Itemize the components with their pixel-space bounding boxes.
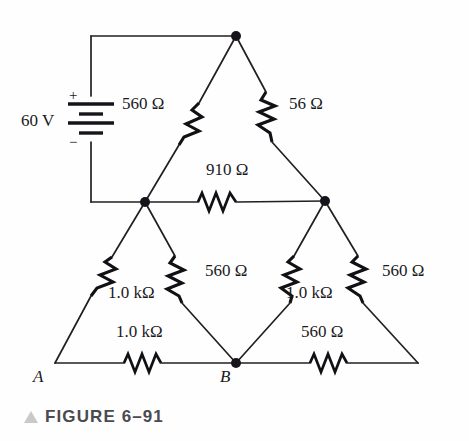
wire-midleft-to-r560-inner (145, 202, 175, 256)
wire-r1k-right-to-B (236, 303, 290, 363)
wire-top-to-r560-upper (199, 36, 236, 103)
resistor-label-lower-left: 1.0 kΩ (108, 284, 155, 301)
wire-r560-upper-to-midleft (145, 145, 179, 202)
wire-r56-to-midright (272, 142, 325, 201)
figure-caption: FIGURE 6–91 (24, 407, 164, 427)
wire-midright-to-r1k-right (294, 201, 325, 256)
polarity-plus-label: + (69, 88, 77, 103)
figure-container: 60 V + − 560 Ω 56 Ω 910 Ω 1.0 kΩ 560 Ω 1… (0, 0, 469, 441)
resistor-top-right-zigzag (258, 92, 275, 142)
resistor-lower-inner-left-zigzag (167, 256, 184, 303)
wire-r560-right-to-bottomright (363, 303, 418, 363)
resistor-label-lower-inner-left: 560 Ω (205, 262, 247, 279)
junction-node-B (231, 358, 241, 368)
resistor-label-middle: 910 Ω (206, 161, 248, 178)
resistor-top-left-zigzag (179, 103, 202, 145)
wire-r910-to-midright (236, 201, 325, 202)
resistor-lower-right-zigzag (348, 256, 366, 303)
resistor-label-bottom-left: 1.0 kΩ (116, 323, 163, 340)
figure-caption-text: FIGURE 6–91 (45, 407, 164, 427)
wire-r1k-left-to-A (55, 296, 91, 363)
resistor-bottom-left-zigzag (124, 354, 161, 372)
circuit-schematic (0, 0, 469, 441)
source-voltage-label: 60 V (21, 112, 54, 129)
resistor-label-top-left: 560 Ω (122, 95, 164, 112)
resistor-label-top-right: 56 Ω (289, 95, 323, 112)
junction-node-mid-right (320, 196, 330, 206)
resistor-middle-zigzag (198, 193, 236, 211)
wire-midleft-to-r1k-left (112, 202, 145, 257)
resistor-label-lower-inner-right: 1.0 kΩ (286, 284, 333, 301)
polarity-minus-label: − (69, 135, 77, 150)
resistor-bottom-right-zigzag (310, 354, 347, 372)
wire-midright-to-r560-right (325, 201, 358, 256)
triangle-up-icon (24, 411, 38, 423)
battery-icon (68, 104, 114, 133)
junction-node-mid-left (140, 197, 150, 207)
node-label-a: A (33, 368, 43, 385)
wire-r560-inner-to-B (182, 303, 236, 363)
resistor-label-bottom-right: 560 Ω (301, 323, 343, 340)
wire-top-to-r56 (236, 36, 266, 92)
junction-node-top (231, 31, 241, 41)
resistor-label-lower-right: 560 Ω (382, 262, 424, 279)
node-label-b: B (220, 368, 230, 385)
